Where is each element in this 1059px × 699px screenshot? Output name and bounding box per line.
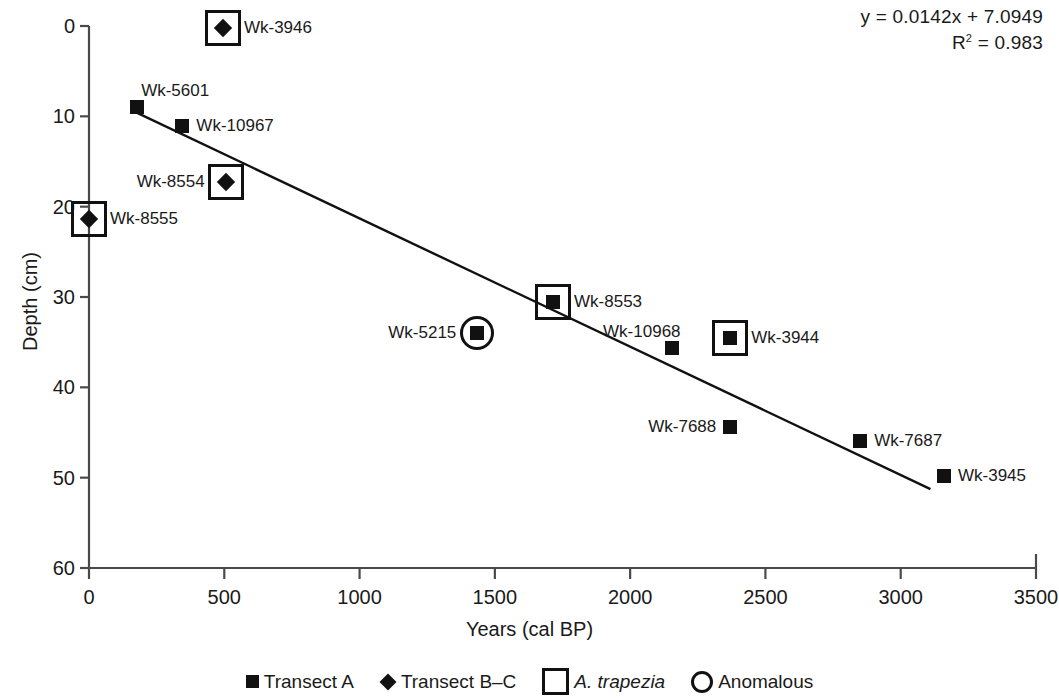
data-point-marker[interactable] — [546, 295, 560, 309]
x-tick-label: 2500 — [743, 586, 788, 609]
data-point-label: Wk-10967 — [196, 116, 273, 136]
r-squared-prefix: R — [952, 32, 966, 53]
legend-item-label: Anomalous — [718, 671, 813, 693]
data-point-marker[interactable] — [723, 331, 737, 345]
x-tick-label: 1500 — [473, 586, 518, 609]
regression-equation: y = 0.0142x + 7.0949 — [860, 4, 1043, 30]
open-circle-icon — [691, 671, 713, 693]
data-point-marker[interactable] — [470, 326, 484, 340]
data-point-marker[interactable] — [130, 100, 144, 114]
data-point-label: Wk-5215 — [388, 323, 456, 343]
r-squared-number: = 0.983 — [972, 32, 1043, 53]
x-tick-label: 3000 — [878, 586, 923, 609]
x-tick-label: 2000 — [608, 586, 653, 609]
legend-item[interactable]: A. trapezia — [542, 668, 665, 695]
x-tick-label: 500 — [208, 586, 241, 609]
y-tick-label: 10 — [0, 105, 75, 128]
x-tick-label: 3500 — [1014, 586, 1059, 609]
x-axis-title: Years (cal BP) — [0, 618, 1059, 641]
legend-item[interactable]: Anomalous — [691, 671, 813, 693]
y-tick-label: 40 — [0, 376, 75, 399]
chart-legend: Transect ATransect B–CA. trapeziaAnomalo… — [0, 668, 1059, 695]
legend-item-label: Transect B–C — [401, 671, 516, 693]
filled-square-icon — [246, 675, 259, 688]
data-point-marker[interactable] — [937, 469, 951, 483]
open-square-icon — [542, 668, 569, 695]
legend-item[interactable]: Transect A — [246, 671, 354, 693]
data-point-marker[interactable] — [665, 341, 679, 355]
data-point-label: Wk-3944 — [751, 328, 819, 348]
y-tick-label: 50 — [0, 466, 75, 489]
data-point-label: Wk-5601 — [141, 81, 209, 101]
y-tick-label: 30 — [0, 286, 75, 309]
data-point-label: Wk-8555 — [110, 209, 178, 229]
x-tick-label: 0 — [83, 586, 94, 609]
y-tick-label: 20 — [0, 195, 75, 218]
data-point-marker[interactable] — [175, 119, 189, 133]
data-point-label: Wk-7688 — [648, 417, 716, 437]
legend-item-label: Transect A — [264, 671, 354, 693]
data-point-marker[interactable] — [723, 420, 737, 434]
scatter-chart-figure: y = 0.0142x + 7.0949 R2 = 0.983 Years (c… — [0, 0, 1059, 699]
data-point-label: Wk-8554 — [137, 172, 205, 192]
filled-diamond-icon — [379, 673, 396, 690]
data-point-label: Wk-10968 — [603, 322, 680, 342]
data-point-label: Wk-7687 — [874, 431, 942, 451]
y-tick-label: 60 — [0, 557, 75, 580]
data-point-label: Wk-3946 — [244, 18, 312, 38]
legend-item-label: A. trapezia — [574, 671, 665, 693]
regression-annotation: y = 0.0142x + 7.0949 R2 = 0.983 — [860, 4, 1043, 55]
y-tick-label: 0 — [0, 15, 75, 38]
data-point-label: Wk-8553 — [574, 292, 642, 312]
data-point-marker[interactable] — [853, 434, 867, 448]
data-point-label: Wk-3945 — [958, 466, 1026, 486]
r-squared-value: R2 = 0.983 — [860, 30, 1043, 56]
x-tick-label: 1000 — [337, 586, 382, 609]
legend-item[interactable]: Transect B–C — [380, 671, 516, 693]
